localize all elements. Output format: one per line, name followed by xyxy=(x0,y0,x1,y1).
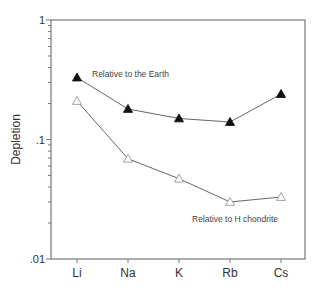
series-annotation: Relative to the Earth xyxy=(92,69,169,79)
depletion-chart: 1.1.01 LiNaKRbCs Relative to the EarthRe… xyxy=(0,0,321,292)
annotations: Relative to the EarthRelative to H chond… xyxy=(92,69,278,224)
x-tick-label-rb: Rb xyxy=(222,266,238,280)
y-axis-ticks: 1.1.01 xyxy=(30,14,51,265)
series-annotation: Relative to H chondrite xyxy=(192,214,278,224)
filled-triangle-marker-icon xyxy=(73,73,82,81)
x-axis-ticks: LiNaKRbCs xyxy=(72,259,288,280)
y-tick-label: 1 xyxy=(39,14,45,26)
open-triangle-marker-icon xyxy=(277,193,286,201)
open-triangle-marker-icon xyxy=(73,96,82,104)
y-tick-label: .1 xyxy=(36,134,45,146)
y-tick-label: .01 xyxy=(30,253,45,265)
x-tick-label-li: Li xyxy=(72,266,81,280)
chart-svg: 1.1.01 LiNaKRbCs Relative to the EarthRe… xyxy=(0,0,321,292)
x-tick-label-cs: Cs xyxy=(274,266,289,280)
series-group xyxy=(73,73,286,205)
y-axis-label: Depletion xyxy=(9,114,23,165)
filled-triangle-marker-icon xyxy=(277,90,286,98)
series-1 xyxy=(73,96,286,205)
series-0 xyxy=(73,73,286,125)
open-triangle-marker-icon xyxy=(175,174,184,182)
x-tick-label-na: Na xyxy=(120,266,136,280)
filled-triangle-marker-icon xyxy=(124,104,133,112)
x-tick-label-k: K xyxy=(175,266,183,280)
